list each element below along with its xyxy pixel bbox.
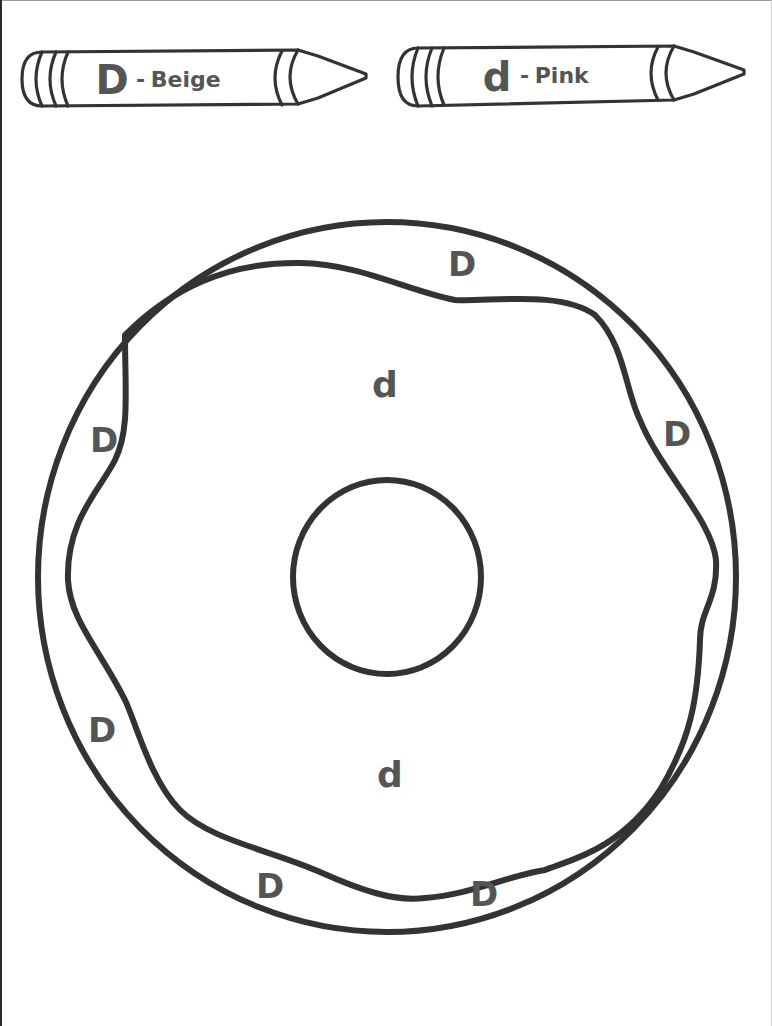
key-pink-label: - Pink xyxy=(520,65,589,87)
coloring-artwork xyxy=(0,0,772,1026)
dough-mark: D xyxy=(256,869,284,903)
dough-mark: D xyxy=(470,877,498,911)
donut-hole-outline xyxy=(293,480,481,674)
frosting-mark: d xyxy=(372,367,398,403)
key-beige-separator: - xyxy=(136,67,145,92)
key-beige-label: - Beige xyxy=(136,69,221,91)
key-beige-letter: D xyxy=(95,60,128,100)
dough-mark: D xyxy=(88,713,116,747)
frosting-mark: d xyxy=(377,757,403,793)
frosting-outline xyxy=(68,263,716,899)
dough-mark: D xyxy=(448,247,476,281)
key-pink-letter: d xyxy=(483,57,512,97)
key-beige-color-name: Beige xyxy=(151,67,221,92)
dough-mark: D xyxy=(90,423,118,457)
key-pink-separator: - xyxy=(520,63,529,88)
dough-mark: D xyxy=(663,417,691,451)
key-pink-color-name: Pink xyxy=(535,63,589,88)
